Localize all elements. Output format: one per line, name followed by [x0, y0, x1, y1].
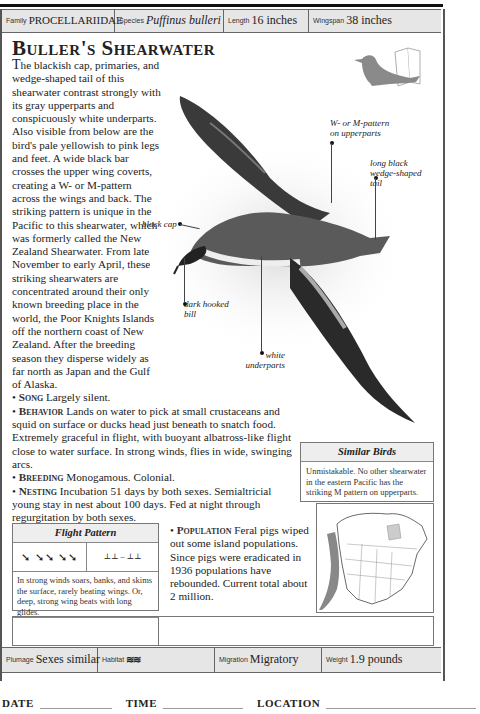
- song-paragraph: • Song Largely silent.: [12, 391, 442, 404]
- migration-cell: MigrationMigratory: [215, 648, 322, 672]
- population-paragraph: • Population Feral pigs wiped out some i…: [170, 524, 310, 604]
- family-label: Family: [6, 17, 27, 24]
- length-cell: Length16 inches: [224, 10, 309, 32]
- plumage-value: Sexes similar: [36, 652, 100, 666]
- family-value: PROCELLARIIDAE: [29, 14, 123, 26]
- nesting-paragraph: • Nesting Incubation 51 days by both sex…: [12, 485, 292, 525]
- behavior-paragraph: • Behavior Lands on water to pick at sma…: [12, 405, 302, 471]
- footer-bar: PlumageSexes similar Habitat≋≋ Migration…: [2, 647, 441, 673]
- species-value: Puffinus bulleri: [146, 13, 221, 27]
- field-log: DATE TIME LOCATION: [2, 697, 480, 709]
- wingspan-value: 38 inches: [346, 13, 392, 27]
- header-bar: FamilyPROCELLARIIDAE SpeciesPuffinus bul…: [2, 9, 441, 33]
- date-label: DATE: [2, 697, 34, 709]
- location-label: LOCATION: [257, 697, 320, 709]
- similar-birds-title: Similar Birds: [301, 443, 433, 462]
- water-habitat-icon: ≋≋: [126, 654, 140, 665]
- length-value: 16 inches: [251, 13, 297, 27]
- flapping-flight-icon: ⊥⊥ – ⊥⊥: [87, 543, 158, 571]
- top-rule: [0, 4, 443, 7]
- length-label: Length: [228, 17, 249, 24]
- similar-birds-text: Unmistakable. No other shearwater in the…: [301, 462, 433, 502]
- wingspan-label: Wingspan: [313, 17, 344, 24]
- location-field[interactable]: [326, 698, 476, 709]
- weight-cell: Weight1.9 pounds: [322, 648, 441, 672]
- family-cell: FamilyPROCELLARIIDAE: [2, 10, 115, 32]
- intro-paragraph: The blackish cap, primaries, and wedge-s…: [12, 58, 162, 391]
- soaring-flight-icon: ➘ ➘➘ ➘➘: [13, 543, 87, 571]
- time-label: TIME: [126, 697, 157, 709]
- flight-pattern-box: Flight Pattern ➘ ➘➘ ➘➘ ⊥⊥ – ⊥⊥ In strong…: [12, 523, 159, 611]
- time-field[interactable]: [163, 698, 243, 709]
- flight-pattern-title: Flight Pattern: [13, 524, 158, 543]
- species-label: Species: [119, 17, 144, 24]
- nest-identification: [12, 616, 434, 646]
- weight-value: 1.9 pounds: [350, 652, 403, 666]
- similar-birds-box: Similar Birds Unmistakable. No other she…: [300, 442, 434, 502]
- species-cell: SpeciesPuffinus bulleri: [115, 10, 224, 32]
- plumage-cell: PlumageSexes similar: [2, 648, 98, 672]
- wingspan-cell: Wingspan38 inches: [309, 10, 441, 32]
- habitat-cell: Habitat≋≋: [98, 648, 215, 672]
- flight-pattern-text: In strong winds soars, banks, and skims …: [13, 572, 158, 620]
- date-field[interactable]: [40, 698, 112, 709]
- migration-value: Migratory: [250, 652, 299, 666]
- range-map: [316, 503, 434, 613]
